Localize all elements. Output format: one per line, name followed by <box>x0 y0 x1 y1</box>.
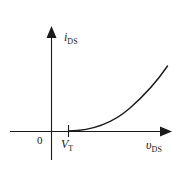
y-axis-arrowhead-icon <box>47 26 57 38</box>
threshold-voltage-label: VT <box>61 135 73 151</box>
x-axis-label: υDS <box>146 136 162 152</box>
y-axis-label: iDS <box>64 28 78 44</box>
threshold-subscript: T <box>68 144 73 153</box>
x-axis-symbol: υ <box>146 138 152 152</box>
x-axis-arrowhead-icon <box>160 127 172 137</box>
x-axis-subscript: DS <box>152 145 163 154</box>
characteristic-curve-figure: iDS υDS 0 VT <box>0 0 177 170</box>
characteristic-curve <box>69 66 168 131</box>
y-axis-subscript: DS <box>67 37 78 46</box>
origin-label: 0 <box>37 135 43 146</box>
